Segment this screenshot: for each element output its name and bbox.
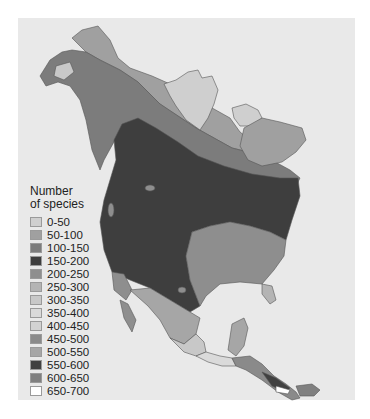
legend-items: 0-5050-100100-150150-200200-250250-30030…	[30, 215, 89, 397]
legend-label: 500-550	[47, 346, 89, 358]
legend-swatch	[30, 217, 42, 227]
legend-label: 650-700	[47, 385, 89, 397]
legend-swatch	[30, 360, 42, 370]
legend-item: 550-600	[30, 358, 89, 371]
legend-swatch	[30, 269, 42, 279]
lake	[145, 185, 155, 191]
legend-item: 0-50	[30, 215, 89, 228]
legend-label: 550-600	[47, 359, 89, 371]
legend-label: 450-500	[47, 333, 89, 345]
region-yucatan	[228, 318, 248, 356]
legend-item: 250-300	[30, 280, 89, 293]
lake	[178, 287, 186, 293]
legend-item: 200-250	[30, 267, 89, 280]
legend-swatch	[30, 295, 42, 305]
legend-item: 450-500	[30, 332, 89, 345]
legend-label: 0-50	[47, 216, 70, 228]
legend-label: 200-250	[47, 268, 89, 280]
legend-label: 400-450	[47, 320, 89, 332]
legend-item: 100-150	[30, 241, 89, 254]
legend-swatch	[30, 386, 42, 396]
legend-label: 50-100	[47, 229, 83, 241]
legend-item: 150-200	[30, 254, 89, 267]
region-mexico-south	[196, 352, 236, 366]
region-panama	[296, 384, 320, 396]
legend-swatch	[30, 282, 42, 292]
legend-label: 350-400	[47, 307, 89, 319]
legend-swatch	[30, 373, 42, 383]
legend-item: 50-100	[30, 228, 89, 241]
legend-item: 600-650	[30, 371, 89, 384]
legend-swatch	[30, 308, 42, 318]
legend-swatch	[30, 334, 42, 344]
legend-title-line2: of species	[30, 198, 89, 211]
region-baja	[120, 300, 136, 332]
legend-swatch	[30, 243, 42, 253]
legend-item: 350-400	[30, 306, 89, 319]
legend-item: 650-700	[30, 384, 89, 397]
legend-title: Number of species	[30, 185, 89, 211]
region-quebec	[240, 118, 306, 166]
legend-label: 250-300	[47, 281, 89, 293]
legend-label: 300-350	[47, 294, 89, 306]
region-florida	[262, 284, 276, 304]
legend-label: 600-650	[47, 372, 89, 384]
legend-label: 100-150	[47, 242, 89, 254]
legend-swatch	[30, 256, 42, 266]
lake	[108, 203, 114, 217]
legend-swatch	[30, 321, 42, 331]
legend-item: 300-350	[30, 293, 89, 306]
legend-swatch	[30, 230, 42, 240]
legend-swatch	[30, 347, 42, 357]
legend: Number of species 0-5050-100100-150150-2…	[30, 185, 89, 397]
legend-label: 150-200	[47, 255, 89, 267]
legend-item: 400-450	[30, 319, 89, 332]
legend-item: 500-550	[30, 345, 89, 358]
